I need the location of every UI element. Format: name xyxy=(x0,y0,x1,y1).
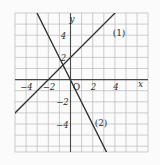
y-tick-4: 4 xyxy=(60,31,66,41)
x-axis-label: x xyxy=(138,79,143,89)
line-1-label: (1) xyxy=(113,28,126,38)
y-tick-minus2: −2 xyxy=(56,97,69,107)
line-2-label: (2) xyxy=(95,118,108,128)
origin-label: O xyxy=(73,82,80,92)
y-axis-label: y xyxy=(68,14,75,24)
x-tick-4: 4 xyxy=(112,82,118,92)
x-tick-minus2: −2 xyxy=(43,82,56,92)
x-tick-2: 2 xyxy=(90,82,96,92)
y-tick-minus4: −4 xyxy=(56,120,69,130)
graph-canvas: −4 −2 2 4 4 2 −2 −4 O x y (1) (2) xyxy=(0,0,160,165)
x-tick-minus4: −4 xyxy=(20,82,33,92)
coordinate-plane-figure: −4 −2 2 4 4 2 −2 −4 O x y (1) (2) xyxy=(0,0,160,165)
y-tick-2: 2 xyxy=(60,53,66,63)
